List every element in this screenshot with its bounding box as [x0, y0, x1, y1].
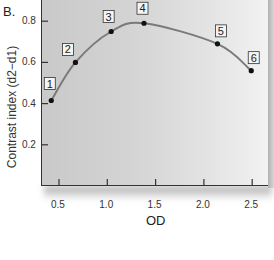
y-tick-label: 0.4 — [22, 98, 36, 109]
x-tick-label: 2.0 — [196, 199, 210, 210]
point-label: 1 — [47, 78, 53, 90]
point-label: 6 — [251, 52, 257, 64]
point-label: 4 — [139, 2, 145, 14]
data-point — [215, 41, 220, 46]
data-point — [141, 21, 146, 26]
data-point — [73, 60, 78, 65]
x-tick-label: 1.0 — [99, 199, 113, 210]
x-axis-label: OD — [146, 213, 166, 228]
point-label: 5 — [218, 25, 224, 37]
point-label: 3 — [106, 11, 112, 23]
point-label: 2 — [65, 43, 71, 55]
point-labels: 123456 — [44, 2, 259, 89]
y-axis-label: Contrast index (d2−d1) — [5, 37, 19, 177]
x-tick-label: 1.5 — [148, 199, 162, 210]
y-tick-label: 0.8 — [22, 15, 36, 26]
data-point — [109, 29, 114, 34]
y-tick-label: 0.2 — [22, 139, 36, 150]
y-tick-label: 0.6 — [22, 56, 36, 67]
x-tick-label: 2.5 — [244, 199, 258, 210]
x-tick-label: 0.5 — [51, 199, 65, 210]
chart-svg: 123456 — [0, 0, 274, 260]
data-point — [49, 98, 54, 103]
data-point — [249, 68, 254, 73]
